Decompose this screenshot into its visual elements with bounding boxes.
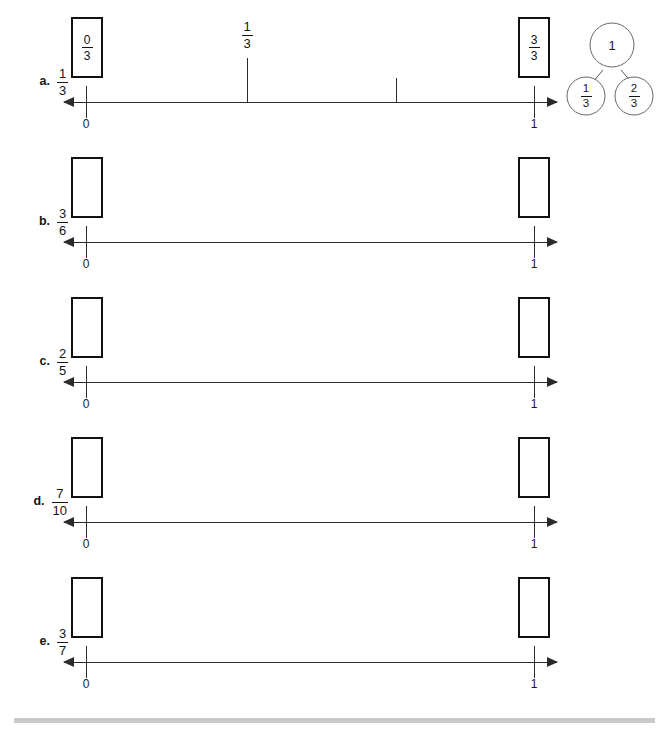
arrow-right-icon: [547, 517, 558, 527]
endpoint-label-one-d: 1: [519, 537, 549, 551]
arrow-right-icon: [547, 377, 558, 387]
answer-fraction-right-a: 3 3: [529, 34, 540, 62]
fraction-denominator: 3: [58, 84, 67, 97]
row-letter-e: e.: [40, 635, 50, 649]
answer-box-right-e[interactable]: [518, 577, 550, 638]
answer-box-left-b[interactable]: [71, 157, 103, 218]
row-letter-b: b.: [39, 215, 50, 229]
endpoint-label-zero-d: 0: [71, 537, 101, 551]
fraction-numerator: 2: [58, 347, 67, 360]
endpoint-label-one-b: 1: [519, 257, 549, 271]
fraction-numerator: 1: [582, 83, 590, 95]
answer-box-right-c[interactable]: [518, 297, 550, 358]
answer-box-right-a[interactable]: 3 3: [518, 17, 550, 78]
fraction-numerator: 3: [58, 207, 67, 220]
endpoint-tick-one-b: [534, 226, 535, 258]
endpoint-tick-one-d: [534, 506, 535, 538]
answer-box-right-b[interactable]: [518, 157, 550, 218]
arrow-right-icon: [547, 237, 558, 247]
endpoint-tick-zero-d: [86, 506, 87, 538]
row-fraction-c: 2 5: [57, 347, 68, 377]
bond-part-left-value: 1 3: [567, 77, 605, 115]
row-label-b: b. 3 6: [10, 202, 68, 242]
arrow-left-icon: [63, 517, 74, 527]
interior-fraction-a-1: 1 3: [242, 20, 253, 50]
row-letter-a: a.: [40, 75, 50, 89]
row-letter-d: d.: [33, 495, 44, 509]
interior-tick-mark-a-1: [247, 58, 248, 103]
row-letter-c: c.: [40, 355, 50, 369]
row-fraction-a: 1 3: [57, 67, 68, 97]
fraction-denominator: 3: [630, 98, 638, 110]
fraction-denominator: 10: [52, 504, 68, 517]
bond-whole-value: 1: [592, 25, 632, 65]
endpoint-label-one-c: 1: [519, 397, 549, 411]
number-line-axis-b: [64, 242, 557, 243]
footer-divider: [14, 718, 655, 723]
row-label-c: c. 2 5: [10, 342, 68, 382]
fraction-numerator: 1: [242, 20, 251, 33]
answer-box-left-c[interactable]: [71, 297, 103, 358]
fraction-denominator: 7: [58, 644, 67, 657]
row-fraction-b: 3 6: [57, 207, 68, 237]
fraction-denominator: 3: [83, 50, 92, 62]
endpoint-label-zero-a: 0: [71, 117, 101, 131]
row-label-a: a. 1 3: [10, 62, 68, 102]
answer-box-left-e[interactable]: [71, 577, 103, 638]
endpoint-tick-one-c: [534, 366, 535, 398]
fraction-numerator: 2: [630, 83, 638, 95]
endpoint-tick-one-e: [534, 646, 535, 678]
bond-part-right-value: 2 3: [615, 77, 653, 115]
row-label-d: d. 7 10: [10, 482, 68, 522]
endpoint-label-zero-e: 0: [71, 677, 101, 691]
endpoint-label-zero-c: 0: [71, 397, 101, 411]
answer-box-left-a[interactable]: 0 3: [71, 17, 103, 78]
answer-fraction-left-a: 0 3: [82, 34, 93, 62]
fraction-bar: [82, 47, 93, 48]
endpoint-tick-zero-a: [86, 86, 87, 118]
fraction-numerator: 1: [58, 67, 67, 80]
endpoint-label-zero-b: 0: [71, 257, 101, 271]
fraction-denominator: 3: [582, 98, 590, 110]
worksheet-page: a. 1 3 0 3 3 3 1: [0, 0, 667, 738]
answer-box-right-d[interactable]: [518, 437, 550, 498]
arrow-right-icon: [547, 97, 558, 107]
fraction-denominator: 3: [530, 50, 539, 62]
fraction-numerator: 3: [58, 627, 67, 640]
row-label-e: e. 3 7: [10, 622, 68, 662]
fraction-denominator: 3: [242, 37, 251, 50]
fraction-numerator: 7: [55, 487, 64, 500]
number-line-row-b: b. 3 6 0 1: [0, 140, 667, 280]
row-fraction-e: 3 7: [57, 627, 68, 657]
arrow-left-icon: [63, 657, 74, 667]
number-line-row-c: c. 2 5 0 1: [0, 280, 667, 420]
fraction-denominator: 5: [58, 364, 67, 377]
answer-box-left-d[interactable]: [71, 437, 103, 498]
row-fraction-d: 7 10: [52, 487, 68, 517]
number-line-row-d: d. 7 10 0 1: [0, 420, 667, 560]
number-line-row-e: e. 3 7 0 1: [0, 560, 667, 700]
endpoint-label-one-a: 1: [519, 117, 549, 131]
interior-tick-mark-a-2: [396, 78, 397, 103]
bond-part-right-fraction: 2 3: [629, 83, 640, 110]
number-line-axis-a: [64, 102, 557, 103]
endpoint-tick-one-a: [534, 86, 535, 118]
number-line-axis-c: [64, 382, 557, 383]
fraction-denominator: 6: [58, 224, 67, 237]
number-line-axis-e: [64, 662, 557, 663]
fraction-numerator: 3: [530, 34, 539, 46]
endpoint-tick-zero-b: [86, 226, 87, 258]
fraction-numerator: 0: [83, 34, 92, 46]
number-line-axis-d: [64, 522, 557, 523]
arrow-left-icon: [63, 97, 74, 107]
endpoint-label-one-e: 1: [519, 677, 549, 691]
endpoint-tick-zero-c: [86, 366, 87, 398]
endpoint-tick-zero-e: [86, 646, 87, 678]
number-line-row-a: a. 1 3 0 3 3 3 1: [0, 0, 667, 140]
bond-whole-text: 1: [608, 38, 615, 53]
interior-tick-label-a-1: 1 3: [227, 20, 267, 50]
number-bond-diagram: 1 1 3 2 3: [560, 14, 660, 124]
bond-part-left-fraction: 1 3: [581, 83, 592, 110]
fraction-bar: [529, 47, 540, 48]
arrow-right-icon: [547, 657, 558, 667]
